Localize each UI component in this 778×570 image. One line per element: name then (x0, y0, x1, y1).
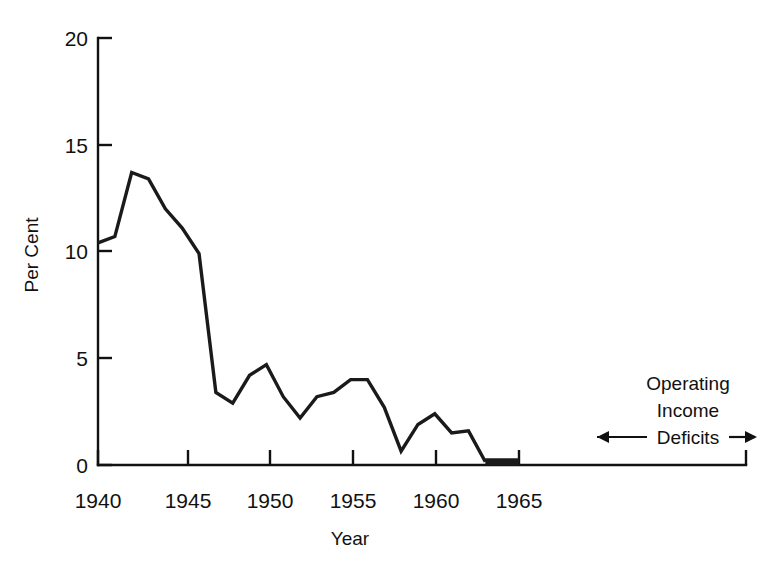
y-tick-label-10: 10 (65, 240, 88, 263)
x-axis-ticks (98, 450, 746, 465)
x-tick-label-1950: 1950 (247, 489, 294, 512)
annotation-line-2: Income (657, 400, 719, 421)
x-axis-title: Year (331, 528, 370, 549)
deficits-annotation: Operating Income Deficits (597, 373, 757, 448)
y-tick-labels: 20 15 10 5 0 (65, 27, 88, 477)
arrow-left-icon (597, 431, 609, 443)
annotation-line-3: Deficits (657, 427, 719, 448)
line-chart: 20 15 10 5 0 1940 1945 1950 1955 1960 19… (0, 0, 778, 570)
y-tick-label-15: 15 (65, 134, 88, 157)
x-tick-label-1945: 1945 (165, 489, 212, 512)
y-tick-label-20: 20 (65, 27, 88, 50)
y-axis-ticks (98, 38, 112, 465)
y-axis-title: Per Cent (21, 217, 42, 293)
chart-container: 20 15 10 5 0 1940 1945 1950 1955 1960 19… (0, 0, 778, 570)
x-tick-label-1940: 1940 (75, 489, 122, 512)
x-tick-labels: 1940 1945 1950 1955 1960 1965 (75, 489, 543, 512)
x-tick-label-1955: 1955 (330, 489, 377, 512)
y-tick-label-5: 5 (76, 347, 88, 370)
x-tick-label-1965: 1965 (496, 489, 543, 512)
arrow-right-icon (745, 431, 757, 443)
annotation-line-1: Operating (646, 373, 729, 394)
y-tick-label-0: 0 (76, 454, 88, 477)
data-series-line (98, 173, 485, 462)
x-tick-label-1960: 1960 (413, 489, 460, 512)
